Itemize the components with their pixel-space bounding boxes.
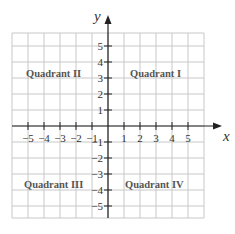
quadrant-iv-label: Quadrant IV bbox=[125, 179, 184, 190]
y-tick-label: 4 bbox=[98, 56, 104, 68]
coordinate-plane: −5−4−3−2−11234554321−1−2−3−4−5 x y Quadr… bbox=[0, 0, 235, 234]
y-axis-arrow-icon bbox=[105, 15, 112, 24]
x-tick-label: −3 bbox=[54, 132, 66, 144]
x-tick-label: −4 bbox=[38, 132, 50, 144]
y-axis-label: y bbox=[92, 8, 101, 24]
y-tick-label: −3 bbox=[91, 168, 103, 180]
y-tick-label: −2 bbox=[91, 152, 103, 164]
y-tick-label: −1 bbox=[91, 136, 103, 148]
y-tick-label: 5 bbox=[98, 40, 104, 52]
x-tick-label: 2 bbox=[137, 132, 143, 144]
x-tick-label: 1 bbox=[121, 132, 127, 144]
x-tick-label: 4 bbox=[169, 132, 175, 144]
quadrant-i-label: Quadrant I bbox=[130, 68, 181, 79]
y-tick-label: −4 bbox=[91, 184, 103, 196]
y-tick-label: 2 bbox=[98, 88, 104, 100]
y-tick-label: −5 bbox=[91, 200, 103, 212]
x-tick-label: −5 bbox=[22, 132, 34, 144]
quadrant-ii-label: Quadrant II bbox=[26, 68, 81, 79]
x-tick-label: 5 bbox=[185, 132, 191, 144]
x-axis-arrow-icon bbox=[213, 123, 222, 130]
y-tick-label: 3 bbox=[98, 72, 104, 84]
x-tick-label: −2 bbox=[70, 132, 82, 144]
quadrant-iii-label: Quadrant III bbox=[24, 179, 83, 190]
y-tick-label: 1 bbox=[98, 104, 104, 116]
x-tick-label: 3 bbox=[153, 132, 159, 144]
x-axis-label: x bbox=[222, 128, 230, 144]
